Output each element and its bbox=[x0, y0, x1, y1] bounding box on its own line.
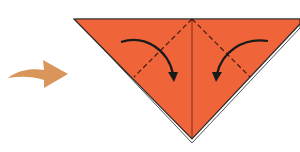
paper-triangle bbox=[74, 19, 300, 143]
origami-diagram: Fold both top corners of the triangle do… bbox=[0, 0, 300, 152]
step-arrow-icon bbox=[8, 60, 68, 88]
